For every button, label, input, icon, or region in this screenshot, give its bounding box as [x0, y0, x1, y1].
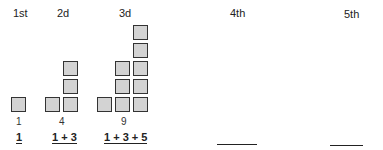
answer-blank-4[interactable]	[217, 144, 257, 145]
square	[133, 79, 148, 94]
term-value-1: 1	[16, 116, 22, 127]
square	[133, 43, 148, 58]
term-sum-2: 1 + 3	[52, 131, 77, 144]
square	[133, 61, 148, 76]
square	[115, 61, 130, 76]
term-sum-1: 1	[16, 131, 22, 144]
term-label-5: 5th	[344, 8, 359, 20]
square	[63, 61, 78, 76]
square	[97, 97, 112, 112]
answer-blank-5[interactable]	[330, 145, 363, 146]
term-label-1: 1st	[13, 7, 28, 19]
term-sum-3: 1 + 3 + 5	[104, 131, 147, 144]
term-label-3: 3d	[119, 7, 131, 19]
term-label-4: 4th	[230, 7, 245, 19]
square	[133, 25, 148, 40]
square	[63, 79, 78, 94]
square	[115, 79, 130, 94]
term-label-2: 2d	[57, 7, 69, 19]
term-value-3: 9	[121, 116, 127, 127]
square	[45, 97, 60, 112]
term-value-2: 4	[59, 116, 65, 127]
square	[63, 97, 78, 112]
square	[115, 97, 130, 112]
square	[11, 97, 26, 112]
square	[133, 97, 148, 112]
